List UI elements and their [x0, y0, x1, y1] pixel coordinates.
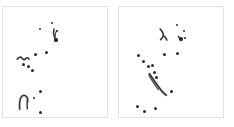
point-mark [137, 54, 140, 57]
point-mark [154, 107, 157, 110]
point-mark [147, 65, 150, 68]
point-mark [151, 64, 154, 67]
point-mark [56, 30, 58, 32]
point-mark [142, 60, 145, 63]
point-mark [176, 24, 179, 27]
point-mark [136, 105, 139, 108]
point-mark [179, 37, 183, 41]
point-mark [39, 90, 42, 93]
point-mark [143, 110, 146, 113]
point-mark [51, 22, 54, 25]
point-mark [27, 65, 30, 68]
point-mark [39, 28, 42, 31]
point-mark [153, 71, 156, 74]
figure-viewport [0, 0, 234, 127]
point-mark [54, 38, 57, 41]
point-mark [176, 52, 179, 55]
point-mark [170, 90, 173, 93]
left-panel [2, 6, 108, 118]
point-mark [31, 69, 34, 72]
point-mark [34, 53, 37, 56]
left-panel-point-layer [3, 7, 107, 117]
point-mark [45, 51, 48, 54]
point-mark [33, 97, 36, 100]
point-mark [163, 53, 166, 56]
point-mark [183, 30, 186, 33]
point-mark [32, 117, 35, 118]
point-mark [39, 111, 42, 114]
point-mark [22, 63, 25, 66]
point-mark [155, 76, 158, 79]
right-panel-point-layer [119, 7, 223, 117]
point-mark [184, 37, 187, 40]
right-panel [118, 6, 224, 118]
